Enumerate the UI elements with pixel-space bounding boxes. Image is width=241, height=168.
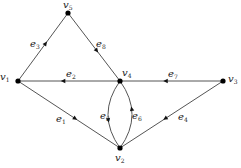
node-label-subscript: 3 xyxy=(234,78,238,85)
node-v3 xyxy=(220,78,225,83)
edge-e8 xyxy=(68,13,120,81)
node-v1 xyxy=(15,78,20,83)
arrowhead-icon xyxy=(72,116,77,120)
edge-label-subscript: 1 xyxy=(62,118,66,125)
node-v4 xyxy=(117,78,122,83)
edge-label-e8: e8 xyxy=(96,39,106,50)
node-label-subscript: 1 xyxy=(6,76,10,83)
edge-label-subscript: 3 xyxy=(36,43,40,50)
node-v5 xyxy=(65,10,70,15)
edge-label-subscript: 5 xyxy=(106,115,110,122)
edge-e3 xyxy=(18,13,68,81)
node-label-v5: v5 xyxy=(63,0,72,11)
edge-label-e6: e6 xyxy=(132,111,142,122)
node-label-subscript: 4 xyxy=(128,72,132,79)
edge-label-e5: e5 xyxy=(100,111,110,122)
node-label-v1: v1 xyxy=(0,72,9,83)
edge-label-subscript: 4 xyxy=(184,116,188,123)
graph-canvas xyxy=(0,0,241,168)
edge-label-e4: e4 xyxy=(178,112,188,123)
node-label-subscript: 2 xyxy=(121,157,125,164)
edge-label-subscript: 7 xyxy=(174,73,178,80)
edge-label-e3: e3 xyxy=(30,39,40,50)
arrowhead-icon xyxy=(43,42,47,47)
edge-label-subscript: 6 xyxy=(138,115,142,122)
node-label-v2: v2 xyxy=(115,153,124,164)
arrowhead-icon xyxy=(61,79,65,83)
arrowhead-icon xyxy=(163,116,168,120)
edge-label-e1: e1 xyxy=(56,114,66,125)
edge-label-e7: e7 xyxy=(168,69,178,80)
node-label-subscript: 5 xyxy=(69,4,73,11)
edge-label-subscript: 8 xyxy=(102,43,106,50)
edge-label-subscript: 2 xyxy=(72,73,76,80)
node-v2 xyxy=(117,145,122,150)
node-label-v3: v3 xyxy=(228,74,237,85)
edge-label-e2: e2 xyxy=(66,69,76,80)
node-label-v4: v4 xyxy=(122,68,131,79)
